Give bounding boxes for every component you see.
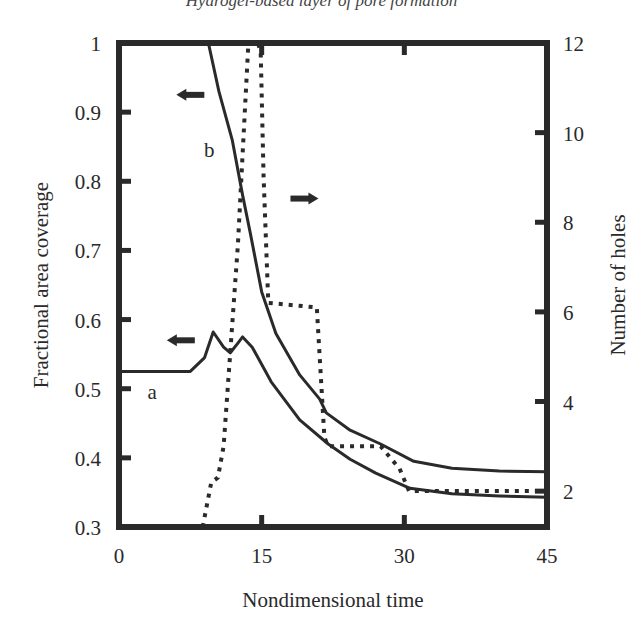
y-tick-label-right: 6 bbox=[563, 301, 574, 325]
annotations: ab bbox=[148, 89, 319, 404]
x-tick-label: 30 bbox=[394, 544, 415, 568]
y-axis-title-right: Number of holes bbox=[606, 214, 630, 355]
series-b bbox=[208, 43, 547, 472]
plot-frame bbox=[119, 43, 547, 527]
y-tick-label-right: 10 bbox=[563, 122, 584, 146]
y-tick-label-left: 0.8 bbox=[75, 170, 101, 194]
y-tick-label-left: 0.9 bbox=[75, 101, 101, 125]
x-tick-label: 0 bbox=[114, 544, 125, 568]
series-a bbox=[119, 332, 547, 497]
y-tick-label-right: 4 bbox=[563, 391, 574, 415]
right-arrow-icon bbox=[290, 193, 318, 205]
chart: 015304510.90.80.70.60.50.40.312108642 ab… bbox=[0, 0, 643, 630]
x-axis-title: Nondimensional time bbox=[242, 588, 423, 612]
plot-border bbox=[119, 43, 547, 527]
y-tick-label-left: 0.4 bbox=[75, 447, 102, 471]
data-series bbox=[119, 43, 547, 527]
x-tick-label: 15 bbox=[251, 544, 272, 568]
series-number-of-holes bbox=[203, 43, 547, 527]
y-tick-label-left: 0.7 bbox=[75, 239, 101, 263]
left-arrow-icon bbox=[167, 334, 195, 346]
curve-label-b: b bbox=[204, 138, 215, 162]
y-tick-label-right: 8 bbox=[563, 211, 574, 235]
x-tick-label: 45 bbox=[537, 544, 558, 568]
left-arrow-icon bbox=[176, 89, 204, 101]
y-tick-label-right: 12 bbox=[563, 32, 584, 56]
y-tick-label-left: 0.3 bbox=[75, 516, 101, 540]
y-tick-label-left: 1 bbox=[91, 32, 102, 56]
y-tick-label-right: 2 bbox=[563, 480, 574, 504]
y-tick-label-left: 0.5 bbox=[75, 378, 101, 402]
y-tick-label-left: 0.6 bbox=[75, 309, 101, 333]
y-axis-title-left: Fractional area coverage bbox=[29, 182, 53, 388]
axis-ticks: 015304510.90.80.70.60.50.40.312108642 bbox=[75, 32, 584, 568]
curve-label-a: a bbox=[148, 380, 158, 404]
